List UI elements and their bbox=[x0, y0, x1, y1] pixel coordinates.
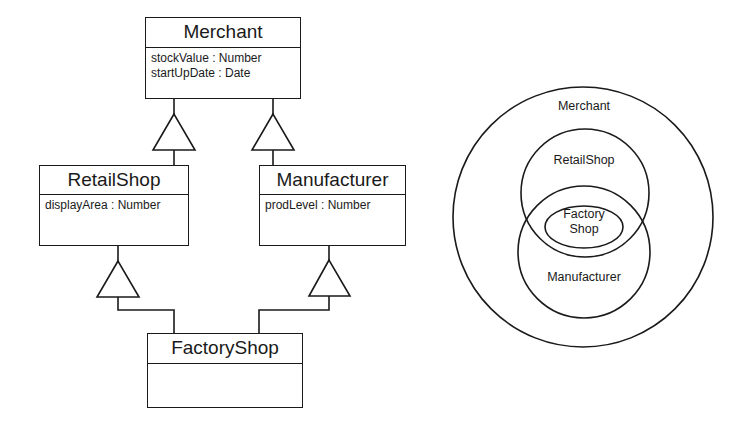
class-attributes bbox=[148, 364, 302, 367]
venn-label-manufacturer: Manufacturer bbox=[547, 270, 621, 284]
venn-retailshop-circle bbox=[521, 129, 649, 257]
generalization-manufacturer-merchant bbox=[252, 98, 294, 165]
attribute: startUpDate : Date bbox=[151, 66, 295, 81]
class-attributes: displayArea : Number bbox=[40, 195, 188, 213]
class-manufacturer: Manufacturer prodLevel : Number bbox=[259, 165, 406, 246]
generalization-factoryshop-retailshop bbox=[97, 245, 174, 333]
inheritance-triangle-icon bbox=[97, 261, 139, 297]
venn-label-factory-line1: Factory bbox=[563, 207, 605, 222]
generalization-retailshop-merchant bbox=[153, 98, 195, 165]
class-attributes: stockValue : Number startUpDate : Date bbox=[146, 48, 300, 81]
inheritance-triangle-icon bbox=[309, 260, 350, 296]
class-retailshop: RetailShop displayArea : Number bbox=[39, 165, 189, 246]
venn-label-merchant: Merchant bbox=[558, 99, 610, 113]
inheritance-triangle-icon bbox=[153, 114, 195, 150]
class-factoryshop: FactoryShop bbox=[147, 333, 303, 408]
class-attributes: prodLevel : Number bbox=[260, 195, 405, 213]
venn-label-retailshop: RetailShop bbox=[553, 153, 614, 167]
class-merchant: Merchant stockValue : Number startUpDate… bbox=[145, 17, 301, 99]
attribute: prodLevel : Number bbox=[265, 198, 400, 213]
class-name: Merchant bbox=[146, 18, 300, 48]
class-name: RetailShop bbox=[40, 166, 188, 195]
inheritance-triangle-icon bbox=[252, 114, 294, 150]
venn-label-factoryshop: Factory Shop bbox=[563, 207, 605, 237]
generalization-factoryshop-manufacturer bbox=[259, 245, 350, 333]
class-name: Manufacturer bbox=[260, 166, 405, 195]
attribute: displayArea : Number bbox=[45, 198, 183, 213]
venn-label-factory-line2: Shop bbox=[563, 222, 605, 237]
attribute: stockValue : Number bbox=[151, 51, 295, 66]
class-name: FactoryShop bbox=[148, 334, 302, 364]
